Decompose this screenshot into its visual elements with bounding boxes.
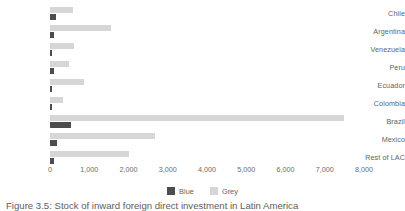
legend-swatch-icon bbox=[167, 187, 175, 195]
plot-area: ChileArgentinaVenezuelaPeruEcuadorColomb… bbox=[0, 0, 405, 165]
bar-blue bbox=[50, 158, 54, 164]
legend-label: Grey bbox=[222, 187, 238, 196]
bar-blue bbox=[50, 68, 54, 74]
legend-item[interactable]: Grey bbox=[210, 187, 238, 196]
bar-blue bbox=[50, 50, 52, 56]
bar-blue bbox=[50, 32, 54, 38]
category-label: Colombia bbox=[357, 94, 405, 112]
chart-row: Argentina bbox=[0, 22, 405, 40]
legend-swatch-icon bbox=[210, 187, 218, 195]
bar-blue bbox=[50, 104, 52, 110]
bar-grey bbox=[50, 115, 344, 121]
category-label: Mexico bbox=[357, 130, 405, 148]
bar-grey bbox=[50, 7, 73, 13]
bar-blue bbox=[50, 86, 52, 92]
chart-row: Rest of LAC bbox=[0, 148, 405, 166]
category-label: Argentina bbox=[357, 22, 405, 40]
bar-blue bbox=[50, 14, 56, 20]
chart-row: Colombia bbox=[0, 94, 405, 112]
x-tick-label: 7,000 bbox=[316, 165, 334, 174]
chart-legend: BlueGrey bbox=[0, 185, 405, 197]
category-label: Brazil bbox=[357, 112, 405, 130]
x-tick-label: 0 bbox=[48, 165, 52, 174]
category-label: Chile bbox=[357, 4, 405, 22]
bar-blue bbox=[50, 140, 57, 146]
chart-row: Mexico bbox=[0, 130, 405, 148]
chart-row: Peru bbox=[0, 58, 405, 76]
category-label: Peru bbox=[357, 58, 405, 76]
x-axis: 01,0002,0003,0004,0005,0006,0007,0008,00… bbox=[0, 165, 405, 181]
bar-grey bbox=[50, 61, 69, 67]
category-label: Rest of LAC bbox=[357, 148, 405, 166]
bar-grey bbox=[50, 97, 63, 103]
chart-row: Brazil bbox=[0, 112, 405, 130]
category-label: Venezuela bbox=[357, 40, 405, 58]
bar-grey bbox=[50, 79, 84, 85]
x-tick-label: 6,000 bbox=[277, 165, 295, 174]
bar-grey bbox=[50, 151, 129, 157]
legend-item[interactable]: Blue bbox=[167, 187, 194, 196]
x-tick-label: 1,000 bbox=[80, 165, 98, 174]
bar-grey bbox=[50, 133, 155, 139]
category-label: Ecuador bbox=[357, 76, 405, 94]
chart-row: Ecuador bbox=[0, 76, 405, 94]
bar-chart: ChileArgentinaVenezuelaPeruEcuadorColomb… bbox=[0, 0, 405, 211]
figure-caption: Figure 3.5: Stock of inward foreign dire… bbox=[6, 200, 405, 211]
x-tick-label: 2,000 bbox=[120, 165, 138, 174]
x-tick-label: 5,000 bbox=[237, 165, 255, 174]
bar-grey bbox=[50, 43, 74, 49]
x-tick-label: 3,000 bbox=[159, 165, 177, 174]
legend-label: Blue bbox=[179, 187, 194, 196]
bar-blue bbox=[50, 122, 71, 128]
x-tick-label: 4,000 bbox=[198, 165, 216, 174]
bar-grey bbox=[50, 25, 111, 31]
chart-row: Venezuela bbox=[0, 40, 405, 58]
chart-row: Chile bbox=[0, 4, 405, 22]
x-tick-label: 8,000 bbox=[355, 165, 373, 174]
